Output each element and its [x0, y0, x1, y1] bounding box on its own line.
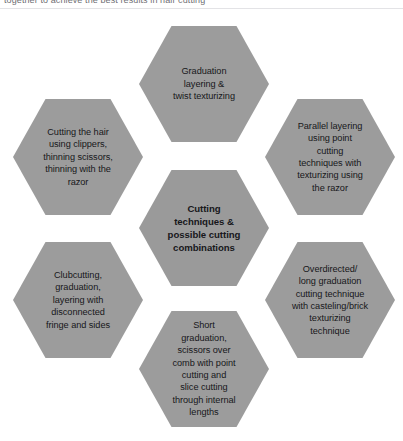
hex-node-bottom-left-label: Clubcutting, graduation, layering with d… [23, 269, 132, 331]
hex-node-bottom-right-label: Overdirected/ long graduation cutting te… [275, 263, 384, 337]
hex-node-top-right-label: Parallel layering using point cutting te… [275, 120, 384, 194]
hex-node-bottom: Short graduation, scissors over comb wit… [139, 311, 269, 427]
hex-node-center-label: Cutting techniques & possible cutting co… [153, 202, 254, 254]
hexagon-diagram: Graduation layering & twist texturizing … [0, 0, 403, 441]
hex-node-top-left: Cutting the hair using clippers, thinnin… [13, 99, 143, 215]
hex-node-bottom-left: Clubcutting, graduation, layering with d… [13, 242, 143, 358]
hex-node-top: Graduation layering & twist texturizing [139, 26, 269, 142]
hex-node-center: Cutting techniques & possible cutting co… [139, 170, 269, 286]
hex-node-bottom-right: Overdirected/ long graduation cutting te… [265, 242, 395, 358]
hex-node-top-label: Graduation layering & twist texturizing [149, 65, 258, 102]
hex-node-top-left-label: Cutting the hair using clippers, thinnin… [23, 126, 132, 188]
hex-node-bottom-label: Short graduation, scissors over comb wit… [149, 319, 258, 418]
hex-node-top-right: Parallel layering using point cutting te… [265, 99, 395, 215]
